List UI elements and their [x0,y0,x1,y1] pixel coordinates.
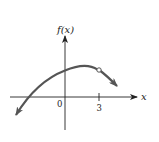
x-axis-label: x [141,91,147,102]
open-point-marker [97,68,101,72]
function-curve-right [101,71,118,86]
origin-label: 0 [57,99,62,109]
function-graph: f(x) x 0 3 [0,0,159,142]
x-tick-label-3: 3 [97,103,102,113]
y-axis-label: f(x) [56,24,74,35]
